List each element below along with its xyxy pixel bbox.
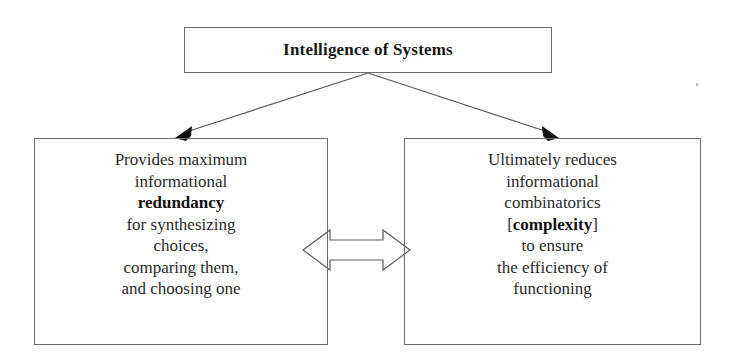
node-text-line: combinatorics [405,192,700,214]
node-text-line: for synthesizing [35,214,327,236]
node-text-line: choices, [35,235,327,257]
connector-root-to-right [368,73,559,141]
node-text-right: Ultimately reducesinformationalcombinato… [405,149,700,300]
node-ultimately-reduces-complexity: Ultimately reducesinformationalcombinato… [404,138,701,345]
node-text-line: to ensure [405,235,700,257]
diagram-canvas: Intelligence of Systems Provides maximum… [0,0,737,364]
node-intelligence-of-systems: Intelligence of Systems [184,27,552,73]
node-text-left: Provides maximuminformationalredundancyf… [35,149,327,300]
node-text-line: redundancy [35,192,327,214]
node-text-line: [complexity] [405,214,700,236]
scan-artifact-speck [696,83,698,86]
node-text-line: informational [405,171,700,193]
emphasized-term: complexity [513,215,592,234]
node-text-line: functioning [405,278,700,300]
connector-root-to-left [175,73,368,141]
node-title-root: Intelligence of Systems [185,40,551,60]
node-text-line: and choosing one [35,278,327,300]
node-text-line: Ultimately reduces [405,149,700,171]
node-provides-maximum-redundancy: Provides maximuminformationalredundancyf… [34,138,328,345]
node-text-line: Provides maximum [35,149,327,171]
node-text-line: the efficiency of [405,257,700,279]
node-text-line: informational [35,171,327,193]
emphasized-term: redundancy [138,193,225,212]
node-text-line: comparing them, [35,257,327,279]
